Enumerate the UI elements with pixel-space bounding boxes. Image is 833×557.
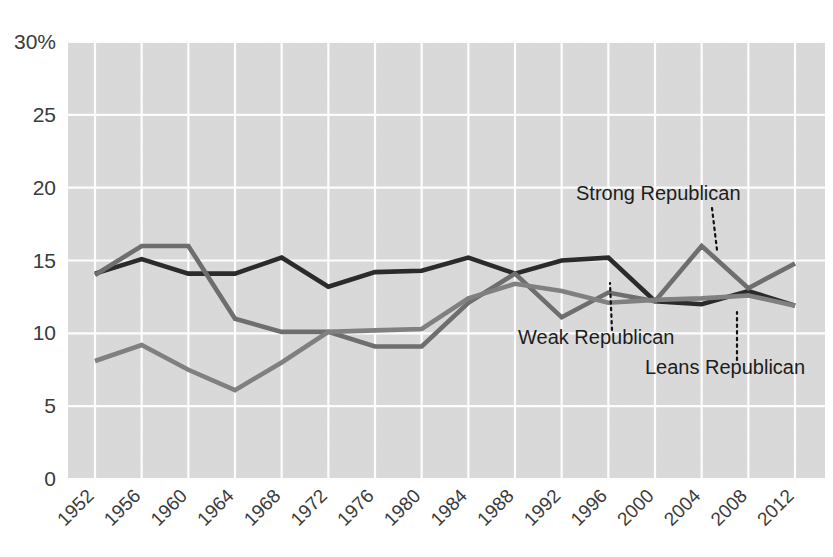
- y-tick-label-5: 5: [44, 394, 56, 417]
- annotation-label-leans-republican: Leans Republican: [645, 356, 805, 378]
- y-tick-label-25: 25: [33, 103, 56, 126]
- chart-container: 051015202530% 19521956196019641968197219…: [0, 0, 833, 557]
- republican-party-id-line-chart: 051015202530% 19521956196019641968197219…: [0, 0, 833, 557]
- y-tick-label-10: 10: [33, 321, 56, 344]
- y-tick-label-0: 0: [44, 467, 56, 490]
- annotation-label-strong-republican: Strong Republican: [576, 182, 741, 204]
- y-tick-label-20: 20: [33, 176, 56, 199]
- y-tick-label-30: 30%: [14, 30, 56, 53]
- y-tick-label-15: 15: [33, 249, 56, 272]
- annotation-label-weak-republican: Weak Republican: [518, 326, 674, 348]
